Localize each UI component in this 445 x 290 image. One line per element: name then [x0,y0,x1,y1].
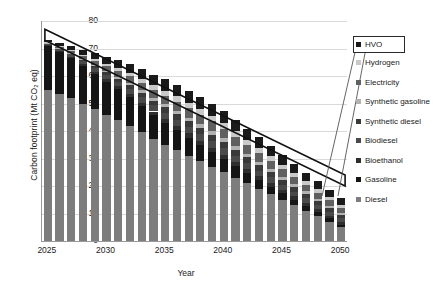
legend-swatch-icon [356,80,361,85]
bar-segment-bioethanol [278,190,286,194]
bar-segment-biodiesel [185,127,193,134]
legend-swatch-icon [356,119,361,124]
legend-item-synthetic-diesel[interactable]: Synthetic diesel [356,112,442,132]
bar-segment-synthetic-gasoline [290,184,298,187]
bar-segment-synthetic-diesel [314,201,322,205]
bar-series-container [42,21,347,241]
bar-segment-hydrogen [208,116,216,122]
bar-segment-synthetic-diesel [220,142,228,148]
bar-segment-electricity [161,96,169,105]
bar-segment-diesel [102,115,110,242]
bar-segment-gasoline [149,115,157,139]
legend-item-electricity[interactable]: Electricity [356,73,442,93]
bar-segment-hydrogen [138,79,146,83]
bar-segment-electricity [267,161,275,169]
bar-segment-hydrogen [314,189,322,193]
legend-label: Bioethanol [365,156,403,165]
bar-segment-bioethanol [220,155,228,159]
bar-segment-diesel [243,183,251,241]
legend-item-bioethanol[interactable]: Bioethanol [356,151,442,171]
legend-item-diesel[interactable]: Diesel [356,190,442,210]
bar-segment-hydrogen [231,131,239,137]
bar-2033 [138,69,146,241]
bar-segment-hvo [220,111,228,123]
bar-segment-gasoline [278,193,286,199]
bar-segment-diesel [126,126,134,242]
bar-segment-hvo [79,50,87,55]
bar-segment-diesel [278,200,286,241]
bar-segment-bioethanol [79,64,87,66]
bar-segment-bioethanol [302,203,310,206]
bar-segment-biodiesel [208,141,216,148]
bar-segment-synthetic-gasoline [79,59,87,60]
legend-swatch-icon [356,138,361,143]
bar-segment-synthetic-gasoline [278,177,286,180]
bar-segment-synthetic-gasoline [173,111,181,115]
bar-segment-hvo [231,120,239,131]
bar-segment-synthetic-gasoline [91,65,99,66]
bar-segment-bioethanol [208,148,216,152]
bar-segment-electricity [44,42,52,43]
bar-segment-hvo [255,137,263,147]
bar-segment-gasoline [126,97,134,126]
bar-segment-hvo [302,173,310,181]
legend-item-synthetic-gasoline[interactable]: Synthetic gasoline [356,92,442,112]
bar-segment-hvo [325,190,333,197]
bar-segment-diesel [220,172,228,241]
bar-segment-synthetic-gasoline [267,169,275,172]
bar-segment-biodiesel [102,75,110,79]
x-axis-tick-label: 2045 [261,245,301,255]
bar-2047 [302,173,310,241]
bar-segment-biodiesel [337,218,345,222]
bar-segment-gasoline [337,225,345,228]
bar-segment-biodiesel [255,171,263,177]
legend-item-hvo[interactable]: HVO [353,36,405,53]
bar-segment-hvo [114,60,122,68]
plot-area [41,21,347,242]
legend-item-hydrogen[interactable]: Hydrogen [356,53,442,73]
bar-segment-diesel [67,98,75,241]
bar-2045 [278,155,286,241]
bar-segment-electricity [91,61,99,65]
bar-segment-electricity [220,129,228,139]
bar-segment-diesel [161,145,169,241]
bar-segment-gasoline [208,152,216,167]
bar-segment-electricity [138,83,146,90]
bar-segment-diesel [267,194,275,241]
bar-segment-bioethanol [114,86,122,89]
bar-segment-hvo [278,155,286,164]
bar-segment-hydrogen [267,156,275,161]
bar-segment-biodiesel [44,43,52,44]
bar-2029 [91,53,99,241]
legend-item-biodiesel[interactable]: Biodiesel [356,131,442,151]
bar-segment-gasoline [290,200,298,206]
bar-2041 [231,120,239,241]
bar-2038 [196,97,204,241]
bar-segment-synthetic-diesel [290,187,298,192]
x-axis-tick-label: 2040 [203,245,243,255]
bar-segment-synthetic-diesel [278,180,286,185]
bar-segment-electricity [337,208,345,213]
bar-segment-bioethanol [185,133,193,137]
bar-2026 [55,43,63,241]
bar-segment-diesel [44,90,52,241]
bar-segment-diesel [208,167,216,241]
bar-segment-bioethanol [314,209,322,212]
y-axis-title: Carbon footprint (Mt CO₂ eq) [29,35,39,215]
bar-segment-hydrogen [67,50,75,51]
bar-segment-biodiesel [267,177,275,182]
legend-item-gasoline[interactable]: Gasoline [356,170,442,190]
bar-segment-hvo [91,53,99,59]
bar-segment-hydrogen [114,68,122,71]
legend-swatch-icon [356,60,361,65]
bar-segment-synthetic-diesel [91,66,99,68]
bar-segment-gasoline [302,206,310,211]
bar-segment-hydrogen [79,55,87,56]
bar-segment-hydrogen [302,181,310,185]
legend-swatch-icon [356,197,361,202]
bar-segment-synthetic-diesel [302,194,310,198]
bar-2035 [161,79,169,241]
bar-segment-synthetic-diesel [161,107,169,112]
carbon-footprint-stacked-bar-chart: Carbon footprint (Mt CO₂ eq) Year 010203… [0,0,445,290]
bar-segment-synthetic-gasoline [102,71,110,73]
